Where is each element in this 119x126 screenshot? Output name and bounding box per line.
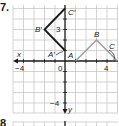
point-label-a-prime: A′ (47, 50, 55, 59)
point-label-b-prime: B′ (35, 25, 42, 34)
origin-label: 0 (58, 64, 63, 73)
tick-label-y-neg4: −4 (50, 99, 60, 108)
point-label-c: C (109, 42, 115, 51)
tick-label-x-4: 4 (104, 64, 109, 73)
next-problem-number: 8 (0, 117, 6, 126)
coordinate-graph: x y −4 4 3 −4 0 A B C A′ B′ C′ (0, 0, 119, 126)
x-axis-label: x (16, 50, 22, 59)
a-prime-pointer (56, 52, 63, 56)
point-label-a: A (67, 51, 73, 60)
tick-label-x-neg4: −4 (15, 64, 25, 73)
tick-label-y-3: 3 (56, 25, 61, 34)
point-label-c-prime: C′ (68, 8, 76, 17)
point-label-b: B (94, 30, 100, 39)
x-axis-arrow-icon (13, 59, 18, 64)
